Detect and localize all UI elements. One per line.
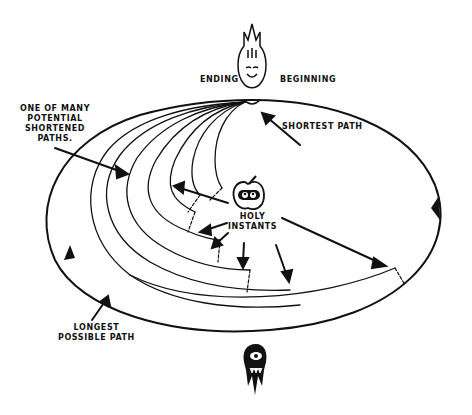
one-eyed-monster-icon bbox=[244, 344, 267, 395]
holy-instants-line-1: HOLY bbox=[228, 212, 277, 222]
holy-instants-line-2: INSTANTS bbox=[228, 222, 277, 232]
ending-label: ENDING bbox=[200, 75, 239, 85]
longest-path-line-2: POSSIBLE PATH bbox=[58, 333, 135, 343]
shortened-paths-line-4: PATHS. bbox=[20, 134, 90, 144]
longest-path-line-1: LONGEST bbox=[58, 323, 135, 333]
shortened-path-1 bbox=[91, 102, 300, 307]
holy-instants-label: HOLY INSTANTS bbox=[228, 212, 277, 232]
direction-arrow-right bbox=[431, 196, 440, 220]
direction-arrow-left bbox=[64, 245, 75, 260]
apple-eyes-icon bbox=[233, 176, 264, 209]
shortest-path-label: SHORTEST PATH bbox=[282, 122, 363, 132]
flame-face-icon bbox=[238, 24, 266, 88]
shortened-paths-label: ONE OF MANY POTENTIAL SHORTENED PATHS. bbox=[20, 104, 90, 144]
shortened-paths-line-2: POTENTIAL bbox=[20, 114, 90, 124]
shortened-paths-line-3: SHORTENED bbox=[20, 124, 90, 134]
cycle-diagram bbox=[0, 0, 472, 415]
shortened-paths-line-1: ONE OF MANY bbox=[20, 104, 90, 114]
shortened-path-3 bbox=[127, 102, 250, 270]
beginning-label: BEGINNING bbox=[280, 75, 336, 85]
longest-path-label: LONGEST POSSIBLE PATH bbox=[58, 323, 135, 343]
